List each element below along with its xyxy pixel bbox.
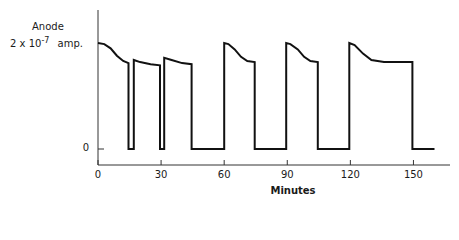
x-tick-label: 150: [404, 169, 423, 180]
x-tick-label: 0: [95, 169, 101, 180]
x-tick-label: 120: [341, 169, 360, 180]
x-ticks: [98, 160, 413, 165]
y-tick-label: 0: [83, 142, 89, 153]
x-tick-label: 60: [218, 169, 231, 180]
x-axis-label: Minutes: [270, 185, 315, 196]
x-tick-label: 90: [281, 169, 294, 180]
anode-current-line: [98, 43, 435, 149]
x-tick-label: 30: [155, 169, 168, 180]
